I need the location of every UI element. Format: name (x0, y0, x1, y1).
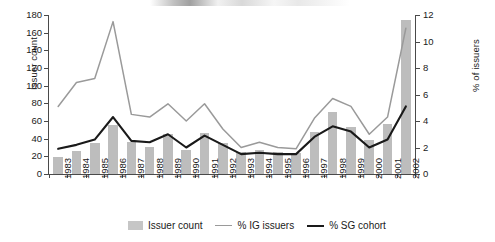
line-swatch-black-icon (307, 225, 324, 227)
legend-item-ig-issuers: % IG issuers (215, 220, 294, 231)
y-tick-label-left: 120 (12, 63, 42, 73)
line-pct-sg-cohort (58, 106, 406, 154)
line-series-group (49, 15, 415, 174)
chart-figure: Issuer count % of issuers 02040608010012… (0, 0, 495, 242)
y-tick-label-right: 2 (423, 143, 449, 153)
y-tick-label-right: 8 (423, 63, 449, 73)
y-axis-right-title: % of issuers (470, 11, 481, 121)
y-tick-label-right: 6 (423, 90, 449, 100)
y-tick-label-left: 140 (12, 45, 42, 55)
y-tick-label-right: 10 (423, 37, 449, 47)
legend-label-ig-issuers: % IG issuers (237, 220, 294, 231)
y-tick-right (415, 42, 420, 43)
y-tick-label-right: 12 (423, 10, 449, 20)
y-tick-label-right: 0 (423, 169, 449, 179)
y-tick-label-left: 180 (12, 10, 42, 20)
y-tick-right (415, 121, 420, 122)
legend-item-issuer-count: Issuer count (128, 220, 202, 231)
legend-item-sg-cohort: % SG cohort (307, 220, 386, 231)
line-pct-ig-issuers (58, 22, 406, 149)
y-tick-label-left: 80 (12, 98, 42, 108)
legend-label-issuer-count: Issuer count (148, 220, 202, 231)
y-tick-label-right: 4 (423, 116, 449, 126)
y-tick-label-left: 20 (12, 151, 42, 161)
legend-label-sg-cohort: % SG cohort (329, 220, 386, 231)
plot-area: 020406080100120140160180 024681012 19831… (49, 15, 415, 174)
y-tick-right (415, 15, 420, 16)
y-tick-right (415, 148, 420, 149)
line-swatch-gray-icon (215, 225, 232, 226)
x-tick (49, 174, 50, 178)
y-tick-right (415, 95, 420, 96)
y-tick-label-left: 60 (12, 116, 42, 126)
y-tick-label-left: 100 (12, 81, 42, 91)
bar-swatch-icon (128, 221, 143, 230)
y-tick-label-left: 160 (12, 28, 42, 38)
y-tick-right (415, 68, 420, 69)
y-tick-label-left: 0 (12, 169, 42, 179)
y-tick-label-left: 40 (12, 134, 42, 144)
chart-legend: Issuer count % IG issuers % SG cohort (128, 220, 386, 231)
cropped-title-artifact (150, 0, 350, 6)
